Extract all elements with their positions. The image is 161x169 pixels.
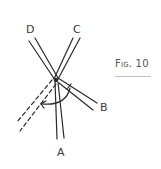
- strand-c: [54, 38, 80, 81]
- crossing-point: [54, 78, 58, 82]
- label-c: C: [73, 24, 81, 35]
- label-d: D: [26, 24, 34, 35]
- strand-d: [29, 38, 58, 80]
- label-b: B: [100, 102, 108, 113]
- label-a: A: [57, 147, 65, 158]
- strand-a: [55, 81, 64, 139]
- caption-underline: [115, 76, 151, 77]
- dashed-strand: [17, 80, 56, 131]
- strand-b: [58, 78, 97, 110]
- figure-caption: Fig. 10: [115, 58, 149, 69]
- knot-diagram: D C B A Fig. 10: [0, 0, 161, 169]
